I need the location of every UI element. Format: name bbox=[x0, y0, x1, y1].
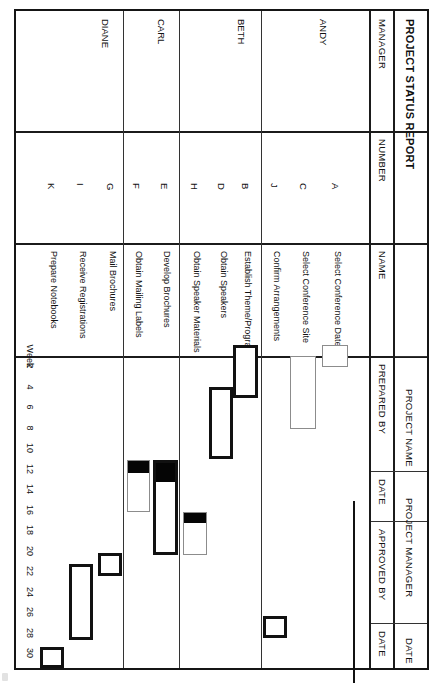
axis-tick-2: 2 bbox=[25, 358, 35, 374]
gantt-bar-g[interactable] bbox=[98, 553, 122, 576]
gantt-bar-k[interactable] bbox=[40, 647, 64, 668]
gantt-bar-h-progress bbox=[184, 513, 206, 523]
project-status-report-sheet: PROJECT STATUS REPORT PROJECT NAME PROJE… bbox=[0, 0, 442, 683]
axis-tick-18: 18 bbox=[25, 522, 35, 538]
axis-tick-8: 8 bbox=[25, 420, 35, 436]
gantt-bar-a[interactable] bbox=[322, 345, 348, 367]
gantt-bar-e[interactable] bbox=[153, 460, 178, 555]
scan-artifact bbox=[2, 673, 8, 681]
axis-tick-16: 16 bbox=[25, 502, 35, 518]
gantt-bar-i[interactable] bbox=[69, 564, 93, 640]
gantt-bar-c[interactable] bbox=[290, 356, 316, 429]
gantt-bar-f-progress bbox=[128, 461, 149, 473]
gantt-bar-d[interactable] bbox=[209, 387, 233, 459]
axis-tick-14: 14 bbox=[25, 481, 35, 497]
axis-tick-26: 26 bbox=[25, 604, 35, 620]
axis-tick-6: 6 bbox=[25, 399, 35, 415]
axis-tick-12: 12 bbox=[25, 461, 35, 477]
gantt-bar-e-progress bbox=[156, 463, 175, 482]
gantt-chart: Week 2 4 6 8 10 12 14 16 18 20 22 24 26 … bbox=[16, 11, 427, 668]
today-line bbox=[353, 501, 355, 683]
gantt-bar-h[interactable] bbox=[183, 512, 207, 555]
axis-tick-22: 22 bbox=[25, 563, 35, 579]
axis-tick-4: 4 bbox=[25, 379, 35, 395]
axis-tick-20: 20 bbox=[25, 543, 35, 559]
axis-tick-24: 24 bbox=[25, 584, 35, 600]
axis-tick-28: 28 bbox=[25, 625, 35, 641]
axis-tick-30: 30 bbox=[25, 645, 35, 661]
gantt-bar-f[interactable] bbox=[127, 460, 150, 512]
gantt-bar-j[interactable] bbox=[263, 616, 287, 638]
gantt-bar-b[interactable] bbox=[233, 345, 258, 398]
form-frame: PROJECT STATUS REPORT PROJECT NAME PROJE… bbox=[14, 9, 429, 670]
axis-tick-10: 10 bbox=[25, 440, 35, 456]
